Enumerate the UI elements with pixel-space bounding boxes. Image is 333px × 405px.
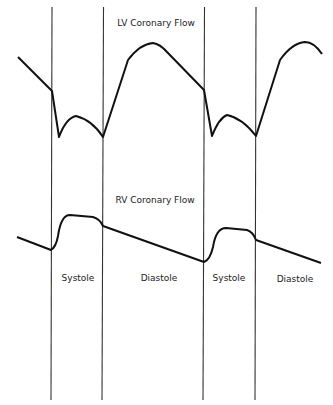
divider-line-3	[203, 7, 205, 400]
divider-line-4	[255, 7, 256, 400]
divider-line-2	[102, 7, 104, 400]
phase-label-diastole-1: Diastole	[141, 273, 178, 283]
phase-label-diastole-2: Diastole	[277, 274, 314, 284]
rv-flow-curve	[17, 215, 321, 263]
lv-flow-title: LV Coronary Flow	[117, 18, 195, 28]
phase-label-systole-1: Systole	[62, 273, 95, 283]
phase-label-systole-2: Systole	[213, 273, 246, 283]
divider-line-1	[51, 7, 52, 400]
rv-flow-title: RV Coronary Flow	[115, 195, 194, 205]
lv-flow-curve	[18, 42, 322, 137]
